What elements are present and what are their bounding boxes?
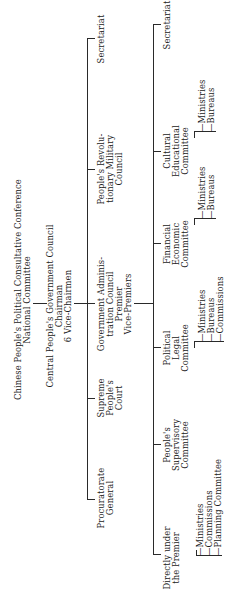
sub-item-label: Planning Committee — [213, 459, 223, 548]
sub-item-label: Commissions — [215, 276, 225, 333]
node-line: Secretariat — [97, 9, 106, 69]
cultural-educational-committee: Cultural Educational Committee — [163, 116, 190, 186]
sub-item: —Planning Committee — [214, 466, 223, 556]
tick-supervisory — [153, 444, 161, 445]
connector-council-level2 — [74, 303, 88, 304]
political-legal-committee: Political Legal Committee — [163, 316, 190, 380]
tick-cultural — [153, 151, 161, 152]
tick-military — [87, 169, 95, 170]
node-line: Vice-Premiers — [124, 254, 133, 354]
node-line: Secretariat — [163, 0, 172, 55]
supreme-peoples-court: Supreme People's Court — [97, 368, 124, 428]
sub-item-label: Bureaus — [206, 175, 216, 211]
government-council-label: Central People's Government Council Chai… — [46, 206, 73, 406]
sublist-political: —Ministries —Bureaus —Commissions — [198, 272, 225, 342]
sublist-directly: —Ministries —Commissions —Planning Commi… — [196, 466, 223, 556]
sub-item-label: Bureaus — [206, 88, 216, 124]
tick-court — [87, 398, 95, 399]
connector-gac-level3 — [134, 303, 154, 304]
node-line: the Premier — [172, 520, 181, 596]
peoples-supervisory-committee: People's Supervisory Committee — [163, 414, 190, 476]
sublist-connector-financial — [194, 218, 195, 225]
level2-bar — [87, 38, 88, 500]
tick-political — [153, 347, 161, 348]
procuratorate-general: Procuratorate General — [97, 466, 115, 530]
sublist-cultural: —Ministries —Bureaus — [198, 72, 216, 132]
sublist-connector-cultural — [194, 131, 195, 138]
sub-item: —Commissions — [216, 272, 225, 342]
node-line: Committee — [181, 316, 190, 380]
tick-secretariat-l3 — [153, 24, 161, 25]
node-line: Council — [115, 126, 124, 212]
org-chart: Chinese People's Political Consultative … — [0, 0, 244, 596]
sub-item: —Bureaus — [207, 159, 216, 219]
sublist-financial: —Ministries —Bureaus — [198, 159, 216, 219]
directly-under-premier: Directly under the Premier — [163, 520, 181, 596]
tick-secretariat — [87, 38, 95, 39]
node-line: Committee — [181, 116, 190, 186]
sub-item: —Bureaus — [207, 72, 216, 132]
financial-economic-committee: Financial Economic Committee — [163, 212, 190, 276]
cppcc-label: Chinese People's Political Consultative … — [14, 200, 32, 400]
government-administration-council: Government Adminis- tration Council Prem… — [97, 254, 133, 354]
tick-procuratorate — [87, 499, 95, 500]
national-committee-line: National Committee — [23, 200, 32, 400]
node-line: Committee — [181, 212, 190, 276]
sublist-connector-political — [194, 341, 195, 348]
tick-directly — [153, 554, 161, 555]
council-vice-chairmen: 6 Vice-Chairmen — [64, 206, 73, 406]
tick-financial — [153, 243, 161, 244]
node-line: General — [106, 466, 115, 530]
level3-bar — [153, 24, 154, 555]
node-line: Committee — [181, 414, 190, 476]
tick-gac — [87, 303, 95, 304]
secretariat-level2: Secretariat — [97, 9, 106, 69]
secretariat-level3: Secretariat — [163, 0, 172, 55]
peoples-revolutionary-military-council: People's Revolu- tionary Military Counci… — [97, 126, 124, 212]
node-line: Court — [115, 368, 124, 428]
